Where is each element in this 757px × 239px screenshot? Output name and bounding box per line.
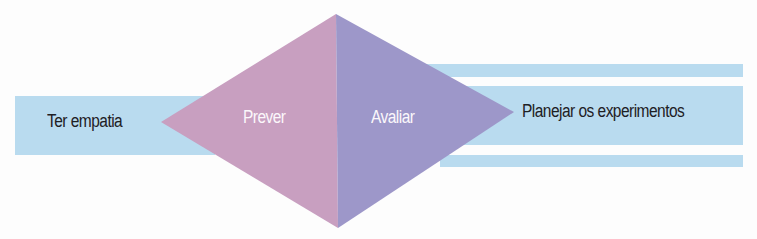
diagram-canvas: Ter empatia Prever Avaliar Planejar os e… <box>0 0 757 239</box>
step-label-predict: Prever <box>243 108 286 126</box>
diamond-right-half <box>336 14 514 228</box>
step-label-empathize: Ter empatia <box>47 112 122 130</box>
step-label-evaluate: Avaliar <box>371 108 414 126</box>
step-label-plan: Planejar os experimentos <box>522 102 684 120</box>
